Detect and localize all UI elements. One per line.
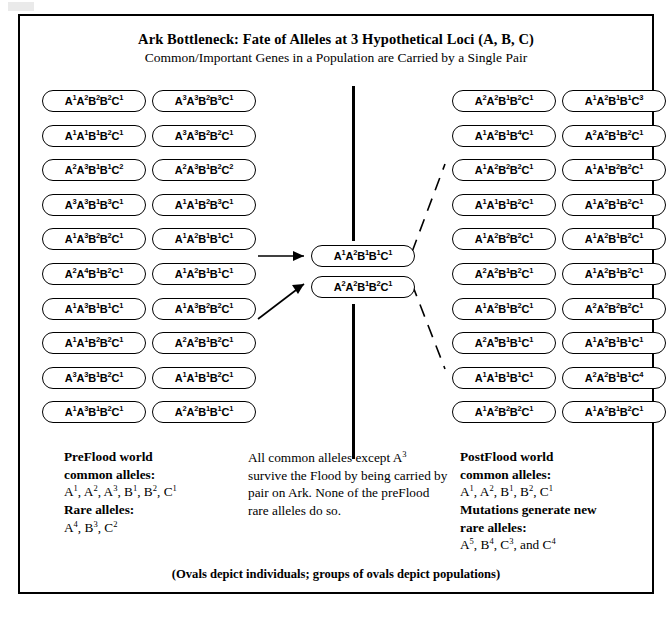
postflood-individual: A1A2B1B2C1 (452, 298, 556, 320)
genotype-label: A2A2B1B2C1 (585, 130, 644, 142)
genotype-label: A1A3B2B2C1 (65, 233, 124, 245)
genotype-label: A1A2B2B2C1 (475, 233, 534, 245)
preflood-individual: A1A3B2B2C1 (152, 298, 256, 320)
ark-pair-group: A1A2B1B1C1A2A2B1B2C1 (311, 245, 415, 307)
preflood-individual: A3A3B2B3C1 (152, 90, 256, 112)
genotype-label: A2A2B1B2C1 (334, 281, 393, 293)
postflood-individual: A1A2B1B2C1 (562, 194, 666, 216)
genotype-label: A2A5B1B1C1 (475, 337, 534, 349)
postflood-heading-1: PostFlood world (460, 448, 660, 466)
dashed-line-lower (412, 284, 445, 369)
postflood-individual: A1A2B1B4C1 (452, 125, 556, 147)
preflood-individual: A1A2B1B1C1 (152, 263, 256, 285)
preflood-individual: A1A2B1B1C1 (152, 228, 256, 250)
postflood-individual: A1A2B2B2C1 (452, 159, 556, 181)
postflood-individual: A2A2B1B2C1 (562, 125, 666, 147)
postflood-column-1: A2A2B1B2C1A1A2B1B4C1A1A2B2B2C1A1A1B1B2C1… (452, 90, 556, 436)
preflood-individual: A3A3B1B3C1 (42, 194, 146, 216)
postflood-individual: A1A2B1B2C1 (562, 401, 666, 423)
ark-individual: A1A2B1B1C1 (311, 245, 415, 267)
preflood-heading-2: common alleles: (64, 466, 254, 484)
genotype-label: A1A2B1B1C1 (334, 250, 393, 262)
postflood-individual: A1A2B2B2C1 (452, 228, 556, 250)
arrow-head-lower (292, 284, 304, 294)
postflood-individual: A1A1B2B2C1 (562, 159, 666, 181)
postflood-individual: A1A1B1B2C1 (452, 194, 556, 216)
genotype-label: A3A3B2B3C1 (175, 95, 234, 107)
genotype-label: A1A3B1B2C1 (65, 406, 124, 418)
genotype-label: A1A2B2B2C1 (475, 406, 534, 418)
genotype-label: A1A1B1B2C1 (175, 372, 234, 384)
genotype-label: A1A2B1B2C1 (585, 268, 644, 280)
postflood-column-2: A1A2B1B1C3A2A2B1B2C1A1A1B2B2C1A1A2B1B2C1… (562, 90, 666, 436)
caption-center: All common alleles except A3 survive the… (248, 449, 448, 520)
preflood-individual: A1A1B1B2C1 (42, 125, 146, 147)
ark-individual: A2A2B1B2C1 (311, 276, 415, 298)
genotype-label: A2A2B1B1C4 (585, 372, 644, 384)
preflood-rare-list: A4, B3, C2 (64, 519, 254, 537)
genotype-label: A1A1B1B2C1 (475, 199, 534, 211)
title-block: Ark Bottleneck: Fate of Alleles at 3 Hyp… (20, 30, 652, 67)
genotype-label: A1A2B1B2C1 (475, 303, 534, 315)
genotype-label: A2A4B1B2C1 (65, 268, 124, 280)
genotype-label: A3A3B1B3C1 (65, 199, 124, 211)
postflood-individual: A1A2B1B1C3 (562, 90, 666, 112)
caption-postflood: PostFlood world common alleles: A1, A2, … (460, 448, 660, 554)
genotype-label: A3A3B1B2C1 (65, 372, 124, 384)
preflood-individual: A1A3B2B2C1 (42, 228, 146, 250)
postflood-individual: A2A2B1B1C4 (562, 367, 666, 389)
preflood-individual: A1A2B2B2C1 (42, 90, 146, 112)
postflood-individual: A1A2B1B2C1 (562, 228, 666, 250)
dashed-line-upper (412, 164, 445, 252)
preflood-heading-3: Rare alleles: (64, 501, 254, 519)
divider-bar-top (352, 86, 355, 241)
postflood-individual: A1A1B1B1C1 (452, 367, 556, 389)
preflood-individual: A1A1B2B2C1 (42, 332, 146, 354)
preflood-column-1: A1A2B2B2C1A1A1B1B2C1A2A3B1B1C2A3A3B1B3C1… (42, 90, 146, 436)
postflood-individual: A2A2B1B2C1 (452, 90, 556, 112)
postflood-individual: A1A2B1B2C1 (562, 263, 666, 285)
postflood-heading-3: Mutations generate new (460, 501, 660, 519)
postflood-individual: A1A2B1B1C1 (562, 332, 666, 354)
genotype-label: A3A3B2B2C1 (175, 130, 234, 142)
page-title: Ark Bottleneck: Fate of Alleles at 3 Hyp… (20, 30, 652, 48)
figure-frame: Ark Bottleneck: Fate of Alleles at 3 Hyp… (18, 14, 654, 594)
genotype-label: A1A2B1B2C1 (585, 233, 644, 245)
genotype-label: A2A2B1B1C1 (175, 406, 234, 418)
genotype-label: A1A2B1B1C1 (175, 268, 234, 280)
preflood-individual: A3A3B2B2C1 (152, 125, 256, 147)
preflood-individual: A1A1B2B3C1 (152, 194, 256, 216)
genotype-label: A2A2B1B2C1 (475, 95, 534, 107)
genotype-label: A2A3B1B2C2 (175, 164, 234, 176)
genotype-label: A2A2B1B2C1 (175, 337, 234, 349)
genotype-label: A1A2B1B2C1 (585, 199, 644, 211)
center-explanation: All common alleles except A3 survive the… (248, 449, 448, 520)
divider-bar-bottom (352, 304, 355, 459)
genotype-label: A1A3B2B2C1 (175, 303, 234, 315)
caption-preflood: PreFlood world common alleles: A1, A2, A… (64, 448, 254, 536)
scan-artifact (8, 2, 34, 11)
genotype-label: A1A1B1B2C1 (65, 130, 124, 142)
genotype-label: A1A1B2B2C1 (585, 164, 644, 176)
genotype-label: A1A2B2B2C1 (65, 95, 124, 107)
postflood-heading-2: common alleles: (460, 466, 660, 484)
genotype-label: A1A2B2B2C1 (475, 164, 534, 176)
postflood-heading-4: rare alleles: (460, 519, 660, 537)
page-subtitle: Common/Important Genes in a Population a… (20, 49, 652, 67)
preflood-individual: A2A3B1B1C2 (42, 159, 146, 181)
genotype-label: A1A2B1B4C1 (475, 130, 534, 142)
genotype-label: A1A2B1B1C1 (175, 233, 234, 245)
postflood-individual: A2A2B1B2C1 (452, 263, 556, 285)
genotype-label: A1A2B1B1C3 (585, 95, 644, 107)
genotype-label: A1A2B1B2C1 (585, 406, 644, 418)
preflood-individual: A2A2B1B1C1 (152, 401, 256, 423)
genotype-label: A2A2B1B2C1 (475, 268, 534, 280)
preflood-individual: A2A2B1B2C1 (152, 332, 256, 354)
genotype-label: A2A3B1B1C2 (65, 164, 124, 176)
arrow-head-upper (293, 251, 304, 261)
preflood-individual: A1A1B1B2C1 (152, 367, 256, 389)
preflood-common-list: A1, A2, A3, B1, B2, C1 (64, 483, 254, 501)
preflood-individual: A3A3B1B2C1 (42, 367, 146, 389)
postflood-common-list: A1, A2, B1, B2, C1 (460, 483, 660, 501)
genotype-label: A1A1B2B2C1 (65, 337, 124, 349)
